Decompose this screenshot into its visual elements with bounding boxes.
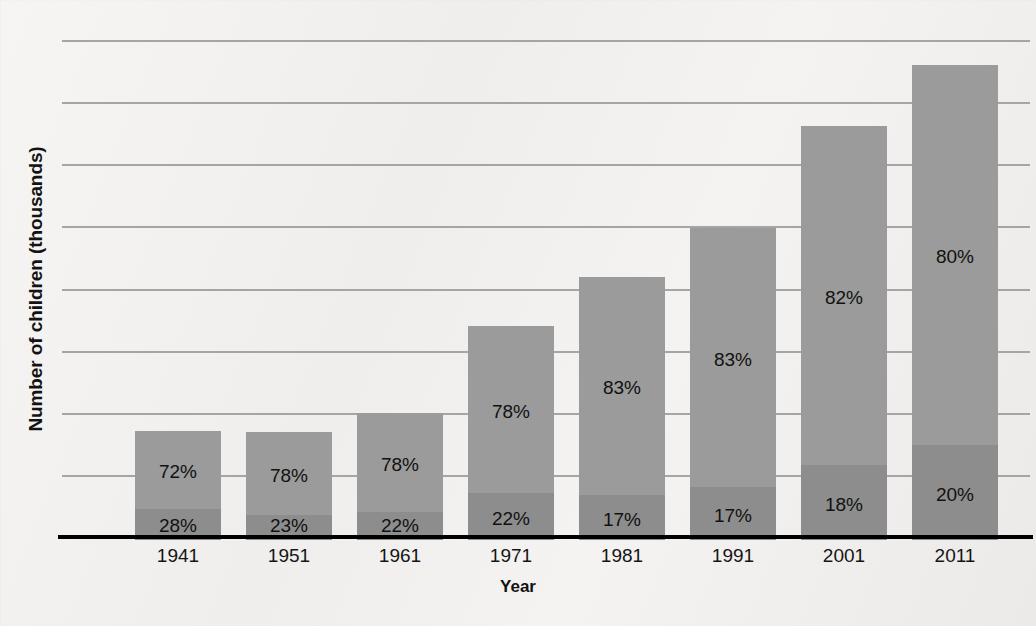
bar-segment-upper: 78% xyxy=(357,413,443,512)
x-tick-label-1981: 1981 xyxy=(579,545,665,567)
bar-label-upper: 78% xyxy=(468,401,554,423)
bar-segment-upper: 80% xyxy=(912,65,998,445)
bar-label-lower: 17% xyxy=(579,509,665,531)
bar-1971: 78%22% xyxy=(468,326,554,540)
bar-segment-upper: 83% xyxy=(579,277,665,496)
bar-1941: 72%28% xyxy=(135,431,221,540)
x-axis-title: Year xyxy=(0,577,1036,597)
bar-segment-lower: 18% xyxy=(801,465,887,540)
bar-1961: 78%22% xyxy=(357,413,443,540)
bar-label-upper: 78% xyxy=(246,465,332,487)
bar-label-lower: 17% xyxy=(690,505,776,527)
bar-segment-upper: 78% xyxy=(246,432,332,515)
x-tick-label-2001: 2001 xyxy=(801,545,887,567)
x-tick-label-1991: 1991 xyxy=(690,545,776,567)
bar-label-upper: 83% xyxy=(690,349,776,371)
gridline xyxy=(62,102,1030,104)
bar-segment-upper: 72% xyxy=(135,431,221,510)
bar-1951: 78%23% xyxy=(246,432,332,540)
stacked-bar-chart: Number of children (thousands) 025050075… xyxy=(0,0,1036,626)
x-axis-line xyxy=(58,535,1033,539)
bar-label-lower: 28% xyxy=(135,515,221,537)
bar-label-lower: 22% xyxy=(357,515,443,537)
bar-label-upper: 83% xyxy=(579,377,665,399)
x-tick-label-1961: 1961 xyxy=(357,545,443,567)
bar-segment-upper: 83% xyxy=(690,228,776,487)
bar-label-upper: 82% xyxy=(801,287,887,309)
bar-label-upper: 78% xyxy=(357,454,443,476)
bar-label-upper: 80% xyxy=(912,246,998,268)
x-tick-label-2011: 2011 xyxy=(912,545,998,567)
bar-label-lower: 22% xyxy=(468,508,554,530)
bar-1981: 83%17% xyxy=(579,277,665,540)
bar-segment-lower: 17% xyxy=(690,487,776,540)
gridline xyxy=(62,40,1030,42)
bar-segment-lower: 17% xyxy=(579,495,665,540)
bar-segment-lower: 22% xyxy=(468,493,554,540)
bar-2011: 80%20% xyxy=(912,65,998,540)
y-axis-title: Number of children (thousands) xyxy=(25,39,47,539)
bar-label-lower: 18% xyxy=(801,494,887,516)
plot-area: 02505007501,0001,2501,5001,7502,000 72%2… xyxy=(62,40,1030,540)
bar-2001: 82%18% xyxy=(801,126,887,540)
bar-1991: 83%17% xyxy=(690,228,776,540)
x-tick-label-1951: 1951 xyxy=(246,545,332,567)
bar-label-lower: 20% xyxy=(912,484,998,506)
bar-segment-upper: 78% xyxy=(468,326,554,493)
bar-segment-lower: 20% xyxy=(912,445,998,540)
bar-segment-upper: 82% xyxy=(801,126,887,465)
bar-label-upper: 72% xyxy=(135,461,221,483)
x-tick-label-1941: 1941 xyxy=(135,545,221,567)
bar-label-lower: 23% xyxy=(246,515,332,537)
x-tick-label-1971: 1971 xyxy=(468,545,554,567)
